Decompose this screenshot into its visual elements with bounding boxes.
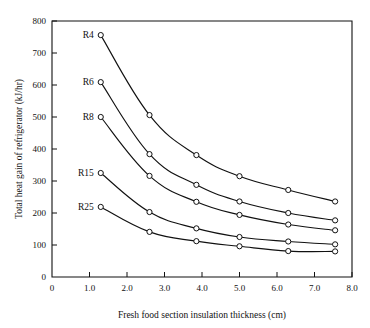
series-curve	[101, 173, 335, 244]
x-tick-label: 5.0	[234, 283, 246, 293]
data-point-marker	[147, 209, 152, 214]
data-point-marker	[333, 228, 338, 233]
series-curve	[101, 207, 335, 252]
heat-gain-line-chart: 01.02.03.04.05.06.07.08.0 01002003004005…	[0, 0, 370, 328]
data-point-marker	[194, 226, 199, 231]
data-point-marker	[333, 249, 338, 254]
x-tick-label: 1.0	[84, 283, 96, 293]
y-tick-label: 600	[33, 80, 47, 90]
data-point-marker	[147, 229, 152, 234]
data-point-marker	[286, 248, 291, 253]
chart-axes	[52, 21, 352, 277]
data-point-marker	[286, 187, 291, 192]
series-label-r15: R15	[78, 168, 94, 178]
y-tick-label: 400	[33, 144, 47, 154]
data-point-marker	[98, 32, 103, 37]
x-tick-label: 6.0	[271, 283, 283, 293]
series-curve	[101, 82, 335, 220]
data-point-marker	[237, 234, 242, 239]
series-r15	[98, 170, 338, 247]
series-label-r8: R8	[83, 112, 94, 122]
data-point-marker	[333, 199, 338, 204]
data-point-marker	[286, 239, 291, 244]
series-label-r25: R25	[78, 202, 94, 212]
data-point-marker	[333, 242, 338, 247]
y-axis-title: Total heat gain of refrigerator (kJ/hr)	[14, 79, 25, 219]
data-point-marker	[237, 199, 242, 204]
series-r4	[98, 32, 338, 204]
data-point-marker	[98, 114, 103, 119]
y-tick-label: 200	[33, 208, 47, 218]
x-tick-label: 4.0	[196, 283, 208, 293]
x-tick-label: 3.0	[159, 283, 171, 293]
y-tick-label: 700	[33, 48, 47, 58]
x-axis-ticks: 01.02.03.04.05.06.07.08.0	[50, 272, 358, 293]
data-point-marker	[286, 222, 291, 227]
series-label-r4: R4	[83, 30, 94, 40]
x-tick-label: 2.0	[121, 283, 133, 293]
data-point-marker	[333, 218, 338, 223]
plot-frame	[52, 21, 352, 277]
y-tick-label: 0	[42, 272, 47, 282]
data-point-marker	[98, 170, 103, 175]
chart-series-group	[98, 32, 338, 254]
series-curve	[101, 35, 335, 201]
x-tick-label: 8.0	[346, 283, 358, 293]
data-point-marker	[147, 152, 152, 157]
y-tick-label: 500	[33, 112, 47, 122]
data-point-marker	[237, 174, 242, 179]
data-point-marker	[194, 199, 199, 204]
data-point-marker	[98, 204, 103, 209]
data-point-marker	[194, 239, 199, 244]
y-tick-label: 100	[33, 240, 47, 250]
y-tick-label: 800	[33, 16, 47, 26]
y-axis-ticks: 0100200300400500600700800	[33, 16, 58, 282]
data-point-marker	[237, 212, 242, 217]
data-point-marker	[194, 182, 199, 187]
data-point-marker	[194, 152, 199, 157]
series-label-r6: R6	[83, 77, 94, 87]
series-labels-group: R4R6R8R15R25	[78, 30, 94, 212]
x-axis-title: Fresh food section insulation thickness …	[118, 310, 286, 321]
data-point-marker	[286, 210, 291, 215]
data-point-marker	[237, 244, 242, 249]
x-tick-label: 0	[50, 283, 55, 293]
chart-figure: 01.02.03.04.05.06.07.08.0 01002003004005…	[0, 0, 370, 328]
y-tick-label: 300	[33, 176, 47, 186]
data-point-marker	[98, 80, 103, 85]
data-point-marker	[147, 112, 152, 117]
x-tick-label: 7.0	[309, 283, 321, 293]
data-point-marker	[147, 173, 152, 178]
series-curve	[101, 117, 335, 230]
series-r25	[98, 204, 338, 254]
